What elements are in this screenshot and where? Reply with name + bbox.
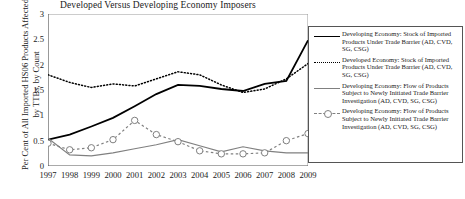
x-axis-tick-label: 1998 [61, 170, 78, 180]
legend-swatch-circle-gray [312, 108, 342, 119]
x-axis-tick-label: 1997 [39, 170, 56, 180]
series-marker-3 [131, 117, 137, 123]
chart-title: Developed Versus Developing Economy Impo… [60, 0, 256, 10]
legend-item[interactable]: Developed Economy: Stock of Imported Pro… [312, 56, 459, 79]
series-marker-3 [261, 150, 267, 156]
legend-swatch-solid-gray [312, 83, 342, 94]
x-axis-tick-label: 2003 [169, 170, 186, 180]
series-marker-3 [218, 151, 224, 157]
series-marker-3 [283, 137, 289, 143]
y-axis-tick-label: 2.5 [33, 34, 44, 44]
legend-item-label: Developing Economy: Flow of Products Sub… [342, 107, 459, 130]
chart-legend: Developing Economy: Stock of Imported Pr… [308, 26, 463, 163]
y-axis-tick-label: 2 [40, 60, 44, 70]
y-axis-tick-label: 1.5 [33, 85, 44, 95]
series-marker-3 [240, 151, 246, 157]
y-axis-tick-label: 3 [40, 9, 44, 19]
series-line-1 [48, 64, 308, 93]
x-axis-tick-label: 2002 [148, 170, 165, 180]
legend-line-icon [314, 36, 340, 37]
series-line-0 [48, 40, 308, 139]
legend-line-icon [314, 62, 340, 63]
x-axis-tick-label: 1999 [83, 170, 100, 180]
series-marker-3 [110, 136, 116, 142]
y-axis-tick-label: 0.5 [33, 136, 44, 146]
legend-item[interactable]: Developing Economy: Flow of Products Sub… [312, 107, 459, 130]
series-marker-3 [175, 138, 181, 144]
x-axis-tick-label: 2000 [104, 170, 121, 180]
series-line-3 [48, 120, 308, 153]
x-axis-tick-label: 2001 [126, 170, 143, 180]
legend-item[interactable]: Developing Economy: Stock of Imported Pr… [312, 30, 459, 53]
legend-swatch-solid-black [312, 31, 342, 42]
x-axis-tick-group: 1997199819992000200120022003200420052006… [0, 170, 465, 190]
legend-item[interactable]: Developing Economy: Flow of Products Sub… [312, 82, 459, 105]
series-marker-3 [88, 145, 94, 151]
x-axis-tick-label: 2004 [191, 170, 208, 180]
legend-circle-marker-icon [324, 110, 332, 118]
x-axis-tick-label: 2006 [234, 170, 251, 180]
chart-root: Developed Versus Developing Economy Impo… [0, 0, 465, 199]
series-marker-3 [48, 140, 51, 146]
y-axis-tick-label: 1 [40, 110, 44, 120]
legend-swatch-dotted-black [312, 57, 342, 68]
x-axis-tick-label: 2009 [299, 170, 316, 180]
x-axis-tick-label: 2007 [256, 170, 273, 180]
legend-line-icon [314, 88, 340, 89]
legend-item-label: Developing Economy: Stock of Imported Pr… [342, 30, 459, 53]
plot-area [48, 14, 308, 166]
legend-item-label: Developed Economy: Stock of Imported Pro… [342, 56, 459, 79]
x-axis-tick-label: 2005 [213, 170, 230, 180]
series-marker-3 [153, 131, 159, 137]
x-axis-tick-label: 2008 [278, 170, 295, 180]
series-marker-3 [196, 148, 202, 154]
plot-svg [48, 14, 308, 166]
series-marker-3 [66, 147, 72, 153]
legend-item-label: Developing Economy: Flow of Products Sub… [342, 82, 459, 105]
